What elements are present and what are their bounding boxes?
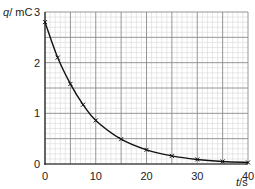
charge-decay-chart: 010203040 0123 q/ mC t/s <box>0 0 255 189</box>
y-axis-label: q/ mC <box>3 6 32 18</box>
x-axis-label: t/s <box>236 176 248 188</box>
y-tick-label: 3 <box>34 6 40 18</box>
x-tick-label: 20 <box>140 170 152 182</box>
x-tick-label: 0 <box>42 170 48 182</box>
x-tick-label: 30 <box>191 170 203 182</box>
x-tick-labels: 010203040 <box>42 170 254 182</box>
y-tick-label: 1 <box>34 107 40 119</box>
y-tick-labels: 0123 <box>34 6 40 170</box>
x-tick-label: 10 <box>90 170 102 182</box>
y-tick-label: 0 <box>34 158 40 170</box>
y-tick-label: 2 <box>34 57 40 69</box>
